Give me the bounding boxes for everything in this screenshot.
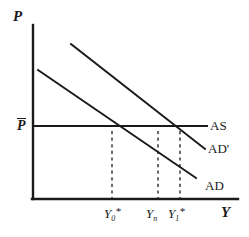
ad-prime-curve-label: AD' bbox=[208, 142, 229, 155]
x-axis-label: Y bbox=[221, 205, 230, 220]
price-level-label: P bbox=[17, 118, 26, 134]
x-tick-label-yn: Yn bbox=[146, 206, 157, 223]
ad-curve-label: AD bbox=[205, 179, 224, 192]
y1-sup: * bbox=[179, 205, 185, 217]
ad-as-diagram: P Y P AS AD' AD Y0* Yn Y1* bbox=[0, 0, 249, 237]
x-tick-label-y1-star: Y1* bbox=[168, 206, 185, 223]
y-axis-label: P bbox=[13, 9, 22, 24]
ad-prime-curve bbox=[71, 44, 205, 149]
x-tick-label-y0-star: Y0* bbox=[104, 206, 121, 223]
as-curve-label: AS bbox=[210, 119, 227, 132]
price-level-symbol: P bbox=[17, 118, 26, 134]
y0-sup: * bbox=[115, 205, 121, 217]
yn-sub: n bbox=[153, 214, 157, 223]
